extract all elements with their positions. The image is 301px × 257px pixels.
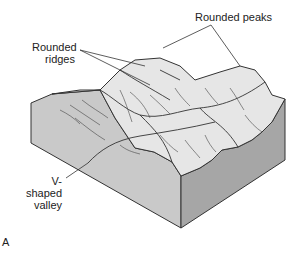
label-rounded-ridges: Rounded ridges (32, 41, 75, 65)
label-rounded-peaks: Rounded peaks (195, 11, 272, 23)
label-ridges-line2: ridges (32, 53, 75, 65)
landscape-block-diagram (0, 0, 301, 257)
label-v-shaped-valley: V-shaped valley (16, 175, 62, 211)
leader-peaks (163, 25, 240, 66)
label-valley-line2: valley (16, 199, 62, 211)
label-valley-line1: V-shaped (16, 175, 62, 199)
label-rounded-peaks-text: Rounded peaks (195, 11, 272, 23)
label-ridges-line1: Rounded (32, 41, 75, 53)
panel-label: A (2, 236, 9, 248)
